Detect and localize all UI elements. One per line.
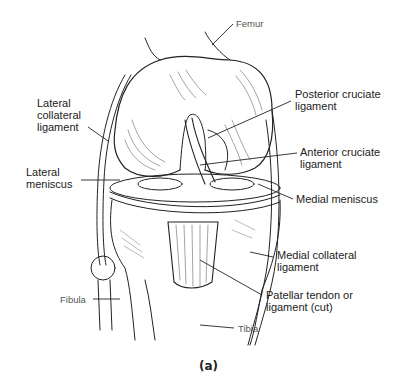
label-tibia: Tibia <box>238 323 258 335</box>
label-patellar-tendon: Patellar tendon or ligament (cut) <box>266 289 353 313</box>
leader-pcl <box>208 101 291 138</box>
leader-tibia <box>200 325 234 328</box>
label-anterior-cruciate-ligament: Anterior cruciate ligament <box>300 146 380 170</box>
leader-femur <box>212 24 233 45</box>
label-femur: Femur <box>236 18 263 30</box>
label-lateral-meniscus: Lateral meniscus <box>26 166 72 190</box>
label-fibula: Fibula <box>60 294 86 306</box>
knee-anatomy-figure: Femur Lateral collateral ligament Latera… <box>0 0 417 389</box>
leader-patellar <box>200 260 262 295</box>
figure-caption: (a) <box>199 359 218 373</box>
label-medial-collateral-ligament: Medial collateral ligament <box>277 249 356 273</box>
leader-acl <box>200 153 297 165</box>
label-lateral-collateral-ligament: Lateral collateral ligament <box>37 97 81 133</box>
label-medial-meniscus: Medial meniscus <box>296 193 378 205</box>
label-posterior-cruciate-ligament: Posterior cruciate ligament <box>295 88 381 112</box>
leader-mcl <box>250 252 273 257</box>
